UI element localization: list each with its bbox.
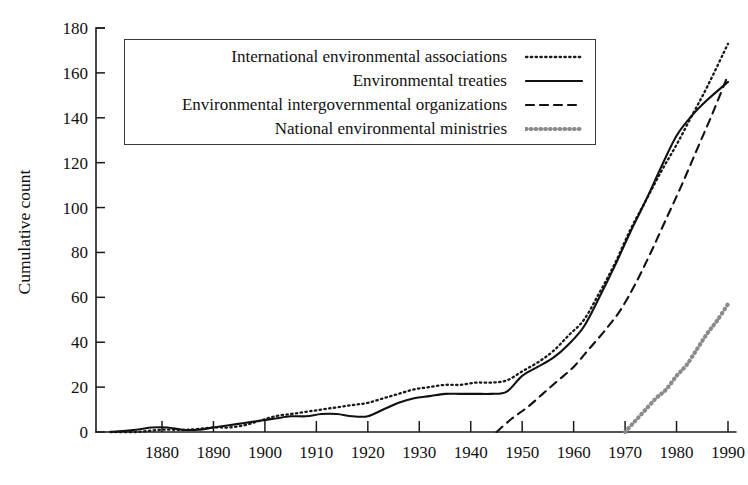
x-axis-tick-label: 1980: [660, 443, 694, 462]
x-axis-tick-label: 1950: [505, 443, 539, 462]
legend-entry: Environmental intergovernmental organiza…: [133, 93, 585, 117]
y-axis-tick-label: 20: [71, 378, 88, 397]
legend-line-sample: [523, 99, 585, 111]
x-axis-tick-label: 1890: [196, 443, 230, 462]
legend-entry-label: Environmental treaties: [353, 71, 507, 91]
y-axis-tick-label: 140: [63, 109, 89, 128]
legend-entry: National environmental ministries: [133, 117, 585, 141]
legend-entry: Environmental treaties: [133, 69, 585, 93]
x-axis-tick-label: 1880: [145, 443, 179, 462]
y-axis-tick-label: 40: [71, 333, 88, 352]
y-axis-tick-label: 0: [80, 423, 89, 442]
x-axis-tick-label: 1970: [608, 443, 642, 462]
x-axis-tick-label: 1990: [711, 443, 745, 462]
legend-line-sample: [523, 123, 585, 135]
x-axis-tick-label: 1960: [557, 443, 591, 462]
y-axis-tick-label: 60: [71, 288, 88, 307]
y-axis-tick-label: 80: [71, 243, 88, 262]
legend-entry-label: Environmental intergovernmental organiza…: [182, 95, 507, 115]
chart-figure: 020406080100120140160180 188018901900191…: [0, 0, 748, 485]
series-line-3: [625, 304, 728, 432]
y-axis-tick-label: 180: [63, 19, 89, 38]
x-axis-tick-label: 1900: [248, 443, 282, 462]
legend-entry-label: National environmental ministries: [275, 119, 507, 139]
x-axis-tick-label: 1930: [402, 443, 436, 462]
legend-line-sample: [523, 51, 585, 63]
legend-entry: International environmental associations: [133, 45, 585, 69]
legend-line-sample: [523, 75, 585, 87]
y-axis: 020406080100120140160180: [63, 19, 106, 442]
axis-titles: Cumulative count: [14, 169, 34, 294]
y-axis-tick-label: 160: [63, 64, 89, 83]
x-axis-tick-label: 1920: [351, 443, 385, 462]
x-axis: 1880189019001910192019301940195019601970…: [96, 421, 745, 462]
y-axis-tick-label: 100: [63, 199, 89, 218]
x-axis-tick-label: 1910: [299, 443, 333, 462]
x-axis-tick-label: 1940: [454, 443, 488, 462]
legend-entry-label: International environmental associations: [231, 47, 507, 67]
y-axis-tick-label: 120: [63, 154, 89, 173]
chart-legend: International environmental associations…: [124, 39, 596, 145]
y-axis-title: Cumulative count: [14, 169, 34, 294]
